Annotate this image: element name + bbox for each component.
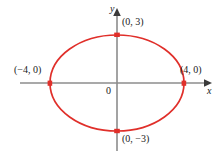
coordinate-plane-svg — [0, 0, 222, 156]
origin-label: 0 — [106, 86, 111, 96]
vertex-label-top: (0, 3) — [122, 17, 144, 27]
vertex-marker-right — [182, 81, 187, 86]
vertex-label-right: (4, 0) — [180, 65, 202, 75]
ellipse-graph-figure: (0, 3) (0, −3) (−4, 0) (4, 0) y x 0 — [0, 0, 222, 156]
vertex-label-left: (−4, 0) — [14, 65, 41, 75]
vertex-marker-top — [114, 33, 120, 37]
vertex-marker-left — [48, 81, 53, 86]
vertex-label-bottom: (0, −3) — [122, 134, 149, 144]
y-axis-label: y — [110, 4, 114, 14]
vertex-marker-bottom — [114, 129, 120, 133]
x-axis-label: x — [207, 86, 211, 96]
